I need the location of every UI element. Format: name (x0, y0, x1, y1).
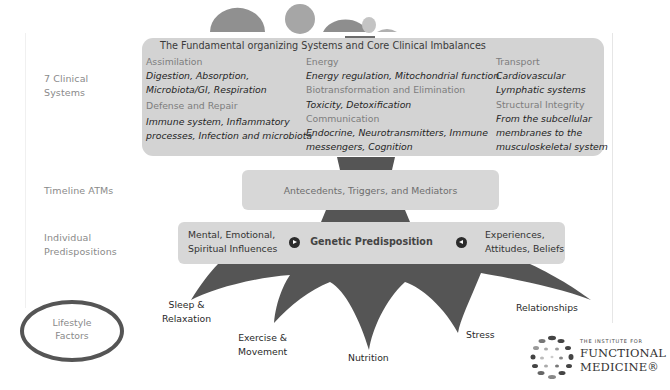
label-line: Factors (20, 329, 124, 342)
arrow-left-circle-icon (456, 237, 467, 248)
ifm-dot-sphere-icon (528, 333, 576, 383)
experiences-attitudes-text: Experiences, Attitudes, Beliefs (485, 228, 564, 256)
text-line: Stress (466, 328, 495, 342)
text-line: Relationships (516, 301, 578, 315)
functional-medicine-tree-diagram: 7 Clinical Systems Timeline ATMs Individ… (0, 0, 670, 390)
text-line: Relaxation (162, 312, 211, 326)
lifestyle-sleep-relaxation: Sleep & Relaxation (162, 298, 211, 326)
text-line: Movement (238, 345, 287, 359)
logo-line-functional: FUNCTIONAL (580, 346, 666, 360)
logo-tagline: THE INSTITUTE FOR (580, 338, 643, 344)
predisposition-box: Mental, Emotional, Spiritual Influences … (178, 222, 565, 264)
text-line: Exercise & (238, 331, 287, 345)
text-line: Sleep & (162, 298, 211, 312)
label-line: Lifestyle (20, 316, 124, 329)
text-line: Experiences, (485, 228, 564, 242)
lifestyle-exercise-movement: Exercise & Movement (238, 331, 287, 359)
lifestyle-nutrition: Nutrition (348, 351, 389, 365)
logo-line-medicine: MEDICINE® (580, 360, 659, 374)
lifestyle-stress: Stress (466, 328, 495, 342)
row-label-lifestyle: Lifestyle Factors (20, 316, 124, 342)
lifestyle-relationships: Relationships (516, 301, 578, 315)
timeline-atm-box: Antecedents, Triggers, and Mediators (242, 170, 499, 210)
ifm-logo: THE INSTITUTE FOR FUNCTIONAL MEDICINE® (528, 333, 668, 385)
text-line: Nutrition (348, 351, 389, 365)
atm-label: Antecedents, Triggers, and Mediators (284, 185, 458, 196)
text-line: Attitudes, Beliefs (485, 242, 564, 256)
